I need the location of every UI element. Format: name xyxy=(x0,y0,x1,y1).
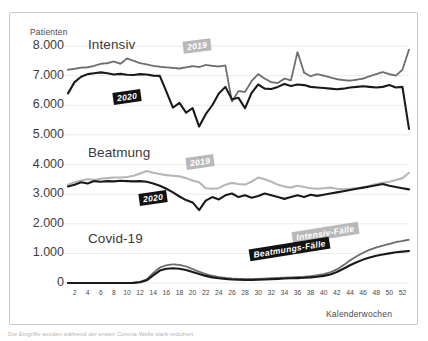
group-label-covid: Covid-19 xyxy=(88,231,143,246)
x-tick-label: 52 xyxy=(394,289,410,296)
y-tick-label: 7.000 xyxy=(14,68,64,82)
y-tick-label: 0 xyxy=(14,275,64,289)
figure-caption: Die Eingriffe wurden während der ersten … xyxy=(8,331,248,340)
y-tick-label: 5.000 xyxy=(14,127,64,141)
y-tick-label: 2.000 xyxy=(14,216,64,230)
y-tick-label: 1.000 xyxy=(14,245,64,259)
y-tick-label: 3.000 xyxy=(14,186,64,200)
y-tick-label: 6.000 xyxy=(14,97,64,111)
x-axis-title: Kalenderwochen xyxy=(326,309,392,319)
group-label-beatmung: Beatmung xyxy=(88,145,150,160)
y-tick-label: 8.000 xyxy=(14,38,64,52)
series-lines xyxy=(68,50,409,283)
y-axis-title: Patienten xyxy=(30,27,68,37)
series-line xyxy=(68,181,409,210)
y-tick-label: 4.000 xyxy=(14,157,64,171)
group-label-intensiv: Intensiv xyxy=(88,37,135,52)
gridlines xyxy=(62,46,409,283)
